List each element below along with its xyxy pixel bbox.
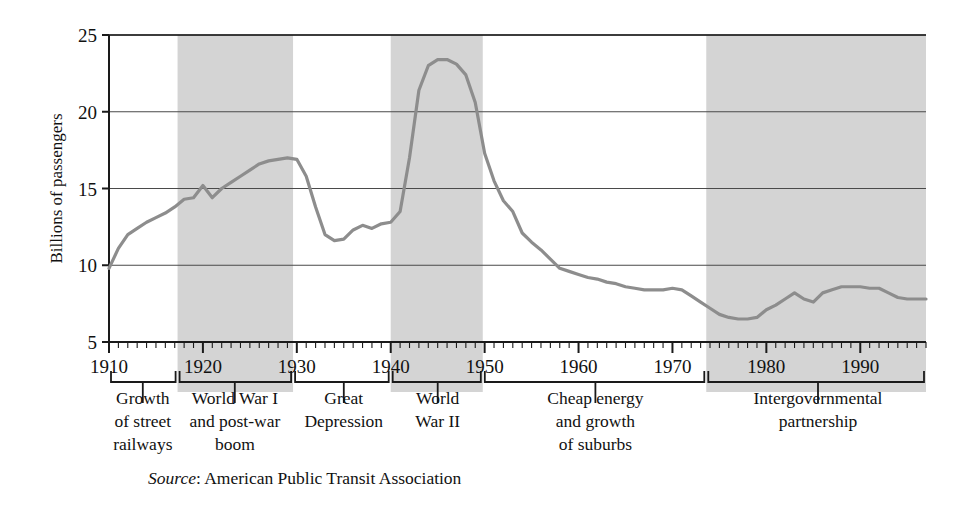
era-label-line: of suburbs (559, 434, 633, 454)
era-label-1: Growthof streetrailways (113, 388, 172, 454)
era-label-line: Intergovernmental (754, 388, 883, 408)
transit-ridership-chart: 510152025 191019201930194019501960197019… (0, 0, 973, 505)
y-tick-label-20: 20 (78, 102, 97, 123)
shaded-band-1 (178, 35, 294, 392)
x-tick-label-1920: 1920 (184, 356, 222, 377)
era-label-line: War II (415, 411, 460, 431)
shaded-band-3 (706, 35, 926, 392)
y-axis-title: Billions of passengers (47, 113, 66, 263)
x-tick-label-1940: 1940 (372, 356, 410, 377)
x-tick-label-1960: 1960 (560, 356, 598, 377)
era-label-line: of street (114, 411, 171, 431)
era-label-line: World War I (192, 388, 278, 408)
era-label-5: Cheap energyand growthof suburbs (547, 388, 644, 454)
era-label-line: partnership (779, 411, 858, 431)
x-tick-label-1970: 1970 (653, 356, 691, 377)
era-label-line: boom (215, 434, 255, 454)
y-tick-label-25: 25 (78, 25, 97, 46)
y-tick-label-5: 5 (88, 332, 98, 353)
era-label-line: Growth (116, 388, 170, 408)
era-label-line: World (416, 388, 460, 408)
transit-ridership-figure: 510152025 191019201930194019501960197019… (0, 0, 973, 505)
source-note: Source: American Public Transit Associat… (148, 468, 462, 488)
x-tick-label-1910: 1910 (90, 356, 128, 377)
era-label-line: and post-war (189, 411, 280, 431)
era-label-line: Depression (304, 411, 383, 431)
y-tick-label-10: 10 (78, 255, 97, 276)
x-tick-label-1990: 1990 (841, 356, 879, 377)
era-label-line: and growth (556, 411, 635, 431)
source-prefix: Source (148, 468, 196, 488)
era-label-line: Great (324, 388, 363, 408)
x-tick-label-1930: 1930 (278, 356, 316, 377)
x-tick-label-1980: 1980 (747, 356, 785, 377)
source-text: : American Public Transit Association (196, 468, 462, 488)
era-label-line: railways (113, 434, 172, 454)
y-tick-label-15: 15 (78, 179, 97, 200)
era-label-line: Cheap energy (547, 388, 644, 408)
